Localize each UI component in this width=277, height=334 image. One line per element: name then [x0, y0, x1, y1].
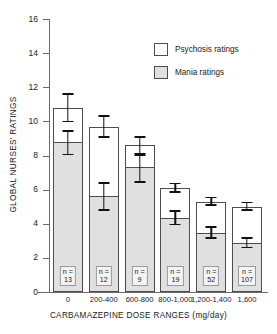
- y-tick-label: 12: [18, 83, 38, 92]
- legend-item-psychosis: Psychosis ratings: [154, 43, 239, 56]
- error-bar-psychosis-cap: [206, 204, 217, 206]
- error-bar-mania: [175, 211, 176, 225]
- sample-size-label: n =107: [238, 266, 256, 286]
- error-bar-psychosis-cap: [206, 197, 217, 199]
- error-bar-psychosis-cap: [134, 136, 145, 138]
- legend-label-psychosis: Psychosis ratings: [175, 45, 239, 54]
- y-tick-label: 4: [18, 219, 38, 228]
- error-bar-mania-cap: [62, 154, 73, 156]
- error-bar-mania-cap: [206, 226, 217, 228]
- y-tick-label: 8: [18, 151, 38, 160]
- bar-group[interactable]: n =9: [125, 19, 155, 292]
- chart-figure: 0246810121416 GLOBAL NURSES' RATINGS n =…: [0, 0, 277, 334]
- x-axis-line: [38, 292, 268, 293]
- y-tick-mark: [43, 19, 49, 20]
- sample-size-label: n =9: [131, 266, 147, 286]
- legend-item-mania: Mania ratings: [154, 66, 239, 79]
- error-bar-mania-cap: [62, 130, 73, 132]
- y-tick-mark: [43, 292, 49, 293]
- sample-size-label: n =13: [60, 266, 76, 286]
- legend-label-mania: Mania ratings: [175, 68, 224, 77]
- error-bar-mania: [103, 183, 104, 210]
- error-bar-mania-cap: [242, 247, 253, 249]
- y-tick-label: 6: [18, 185, 38, 194]
- y-tick-label: 2: [18, 253, 38, 262]
- error-bar-psychosis-cap: [170, 183, 181, 185]
- error-bar-mania-cap: [242, 237, 253, 239]
- y-tick-mark: [43, 224, 49, 225]
- error-bar-psychosis-cap: [242, 202, 253, 204]
- legend-swatch-psychosis-icon: [154, 43, 168, 56]
- bar-group[interactable]: n =12: [89, 19, 119, 292]
- y-axis-title: GLOBAL NURSES' RATINGS: [9, 75, 18, 235]
- error-bar-mania-cap: [98, 209, 109, 211]
- y-tick-mark: [43, 258, 49, 259]
- sample-size-label: n =52: [203, 266, 219, 286]
- y-tick-mark: [43, 190, 49, 191]
- error-bar-psychosis-cap: [62, 93, 73, 95]
- y-tick-mark: [43, 121, 49, 122]
- y-tick-mark: [43, 53, 49, 54]
- error-bar-psychosis: [67, 94, 68, 121]
- y-tick-mark: [43, 156, 49, 157]
- error-bar-mania: [67, 131, 68, 155]
- legend-swatch-mania-icon: [154, 66, 168, 79]
- y-tick-label: 14: [18, 49, 38, 58]
- error-bar-mania: [139, 154, 140, 182]
- error-bar-mania-cap: [170, 210, 181, 212]
- error-bar-mania-cap: [98, 182, 109, 184]
- error-bar-psychosis-cap: [170, 191, 181, 193]
- error-bar-mania-cap: [134, 153, 145, 155]
- error-bar-psychosis-cap: [98, 115, 109, 117]
- error-bar-mania-cap: [170, 224, 181, 226]
- bar-group[interactable]: n =13: [53, 19, 83, 292]
- error-bar-psychosis-cap: [242, 209, 253, 211]
- y-tick-label: 0: [18, 288, 38, 297]
- x-axis-title: CARBAMAZEPINE DOSE RANGES (mg/day): [0, 311, 277, 320]
- x-tick-label: 1,600: [217, 296, 277, 304]
- error-bar-psychosis: [103, 116, 104, 136]
- sample-size-label: n =19: [167, 266, 183, 286]
- sample-size-label: n =12: [96, 266, 112, 286]
- error-bar-mania-cap: [206, 237, 217, 239]
- y-tick-label: 16: [18, 15, 38, 24]
- error-bar-mania-cap: [134, 181, 145, 183]
- error-bar-psychosis-cap: [98, 136, 109, 138]
- error-bar-psychosis-cap: [62, 121, 73, 123]
- chart-legend: Psychosis ratings Mania ratings: [154, 43, 239, 89]
- y-tick-label: 10: [18, 117, 38, 126]
- y-tick-mark: [43, 87, 49, 88]
